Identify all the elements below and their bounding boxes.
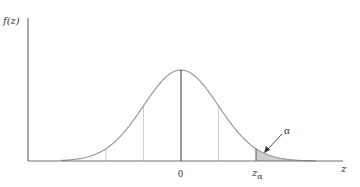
normal-density-chart: f(z) z 0 zα α [0, 0, 360, 187]
x-axis-label: z [340, 163, 347, 174]
z-alpha-label: zα [251, 167, 263, 181]
alpha-arrow [267, 134, 282, 150]
y-axis-label: f(z) [2, 15, 20, 26]
zero-tick-label: 0 [178, 168, 183, 179]
alpha-label: α [284, 124, 290, 136]
arrow-head-icon [264, 146, 270, 153]
density-curve [61, 70, 316, 161]
